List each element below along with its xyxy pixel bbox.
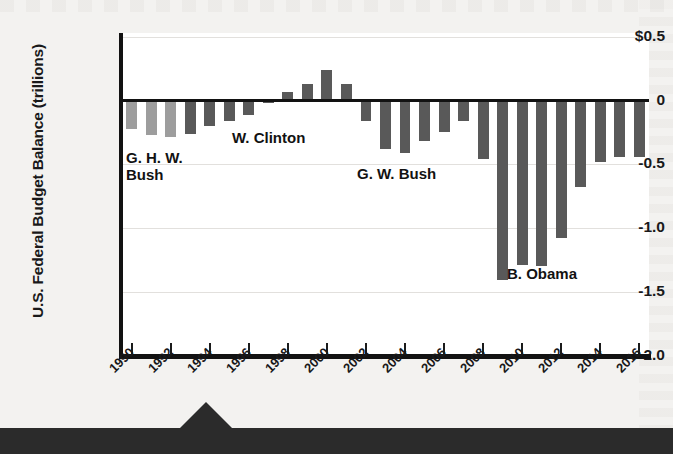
y-tick-label: $0.5 xyxy=(561,27,673,45)
bar-1996 xyxy=(243,101,254,115)
bar-1992 xyxy=(165,101,176,138)
plot-area xyxy=(122,33,649,357)
zero-baseline xyxy=(122,99,649,102)
bar-2012 xyxy=(556,101,567,239)
bar-1993 xyxy=(185,101,196,134)
bar-2002 xyxy=(361,101,372,121)
bar-2007 xyxy=(458,101,469,121)
y-axis-title: U.S. Federal Budget Balance (trillions) xyxy=(29,6,47,356)
bar-2015 xyxy=(614,101,625,157)
bar-2013 xyxy=(575,101,586,188)
bar-2001 xyxy=(341,84,352,101)
bar-2000 xyxy=(321,70,332,101)
bar-1999 xyxy=(302,84,313,101)
bar-1995 xyxy=(224,101,235,121)
annotation-obama: B. Obama xyxy=(507,266,577,283)
annotation-ghw-bush: G. H. W. Bush xyxy=(126,150,183,184)
bar-2006 xyxy=(439,101,450,133)
bar-1991 xyxy=(146,101,157,135)
bar-2004 xyxy=(400,101,411,153)
bar-2011 xyxy=(536,101,547,267)
bar-2010 xyxy=(517,101,528,265)
y-axis-line xyxy=(119,33,123,358)
y-tick-label: -1.5 xyxy=(561,282,673,300)
bar-1990 xyxy=(126,101,137,129)
annotation-clinton: W. Clinton xyxy=(232,130,305,147)
bar-1994 xyxy=(204,101,215,127)
annotation-gw-bush: G. W. Bush xyxy=(357,166,436,183)
caption-band xyxy=(0,428,673,454)
bar-2003 xyxy=(380,101,391,149)
y-tick-label: -1.0 xyxy=(561,218,673,236)
bar-2005 xyxy=(419,101,430,142)
bar-2009 xyxy=(497,101,508,281)
caption-pointer xyxy=(180,402,232,428)
bar-2016 xyxy=(634,101,645,157)
bar-2014 xyxy=(595,101,606,162)
budget-balance-chart: U.S. Federal Budget Balance (trillions) … xyxy=(0,0,673,454)
bar-2008 xyxy=(478,101,489,160)
